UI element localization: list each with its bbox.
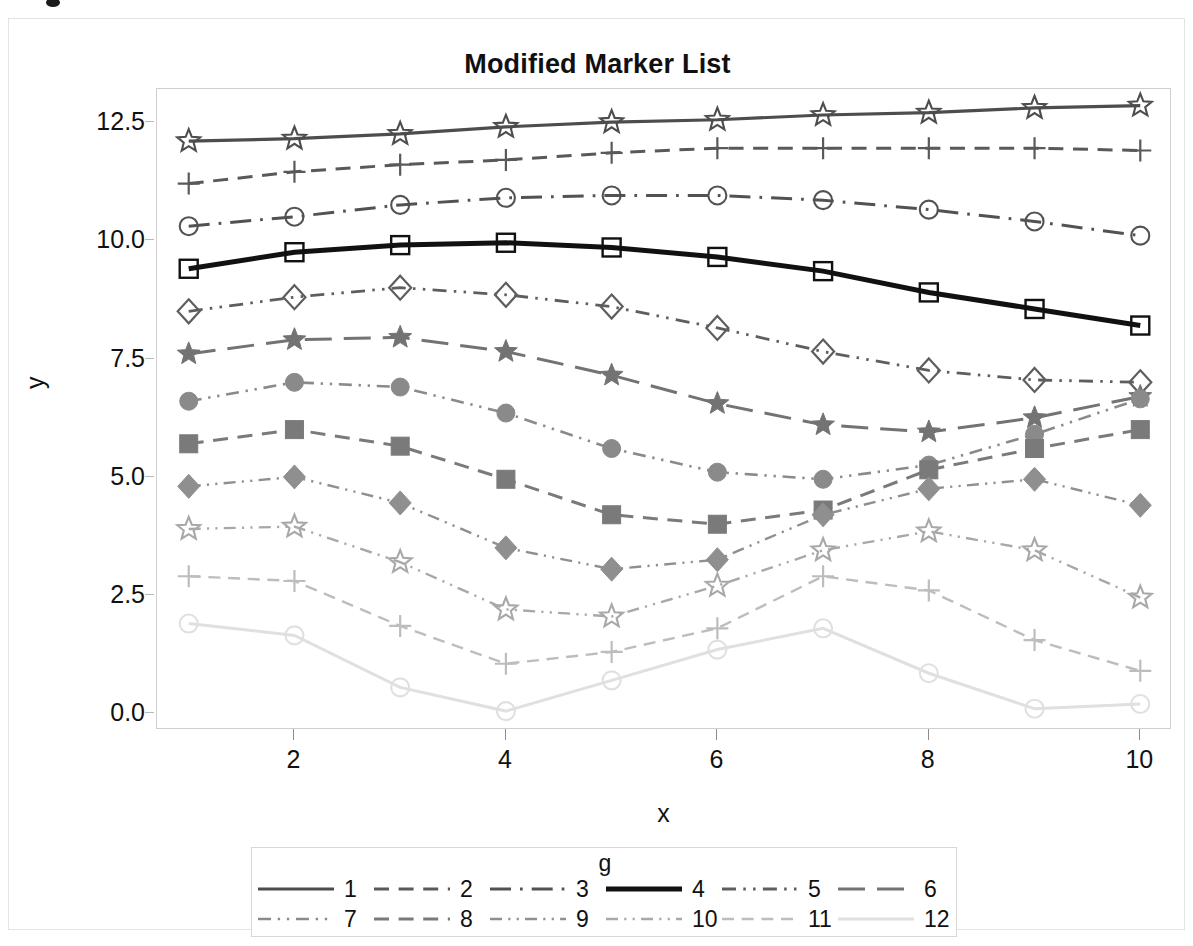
data-point-diamond-filled: [1129, 493, 1151, 517]
data-point-plus: [283, 161, 305, 183]
legend-item-11[interactable]: 11: [721, 906, 837, 933]
y-tick-label: 5.0: [110, 461, 145, 490]
y-tick-mark: [145, 239, 154, 240]
legend-swatch-3: [489, 882, 567, 896]
legend-label-7: 7: [344, 906, 372, 933]
legend-swatch-1: [257, 882, 335, 896]
legend-line-sample-12: [837, 912, 915, 926]
legend-item-1[interactable]: 1: [257, 876, 373, 903]
legend-item-5[interactable]: 5: [721, 876, 837, 903]
y-tick-mark: [145, 712, 154, 713]
legend-item-12[interactable]: 12: [837, 906, 953, 933]
data-point-square-filled: [391, 437, 409, 455]
data-point-star-open: [706, 574, 729, 596]
legend-label-5: 5: [808, 876, 836, 903]
data-point-plus: [706, 617, 728, 639]
legend-swatch-4: [605, 882, 683, 896]
data-point-plus: [812, 137, 834, 159]
y-tick-label: 0.0: [110, 698, 145, 727]
series-10: [177, 515, 1151, 627]
data-point-star-filled: [600, 363, 623, 385]
x-tick-label: 8: [921, 745, 935, 774]
data-point-plus: [495, 149, 517, 171]
legend-item-10[interactable]: 10: [605, 906, 721, 933]
data-point-square-filled: [497, 470, 515, 488]
legend-label-8: 8: [460, 906, 488, 933]
y-tick-label: 12.5: [96, 107, 145, 136]
legend-swatch-12: [837, 912, 915, 926]
series-5: [178, 276, 1152, 395]
legend-item-6[interactable]: 6: [837, 876, 953, 903]
legend-row-1: 123456: [252, 874, 958, 904]
legend-label-12: 12: [924, 906, 952, 933]
data-point-plus: [389, 154, 411, 176]
legend-line-sample-9: [489, 912, 567, 926]
data-point-plus: [918, 579, 940, 601]
x-tick-mark: [928, 729, 929, 740]
legend-label-1: 1: [344, 876, 372, 903]
data-point-star-open: [494, 597, 517, 619]
data-point-plus: [1129, 139, 1151, 161]
legend-label-2: 2: [460, 876, 488, 903]
data-point-square-filled: [603, 506, 621, 524]
legend-label-4: 4: [692, 876, 720, 903]
series-3: [180, 186, 1150, 244]
x-tick-mark: [716, 729, 717, 740]
legend-item-2[interactable]: 2: [373, 876, 489, 903]
legend-item-3[interactable]: 3: [489, 876, 605, 903]
data-point-star-open: [1023, 538, 1046, 560]
data-point-plus: [283, 570, 305, 592]
page-title: Modified Marker List: [9, 49, 1186, 80]
data-point-circle-filled: [497, 404, 515, 422]
x-axis: 246810: [156, 729, 1171, 799]
series-2: [178, 137, 1152, 194]
y-tick-mark: [145, 358, 154, 359]
series-8: [180, 421, 1150, 534]
x-tick-label: 2: [286, 745, 300, 774]
legend-row-2: 789101112: [252, 904, 958, 934]
series-6: [177, 325, 1151, 441]
legend-item-7[interactable]: 7: [257, 906, 373, 933]
legend: g 123456789101112: [251, 847, 957, 937]
legend-line-sample-4: [605, 882, 683, 896]
legend-item-4[interactable]: 4: [605, 876, 721, 903]
series-line-3: [189, 195, 1141, 235]
legend-label-11: 11: [808, 906, 836, 933]
plot-svg: [157, 89, 1172, 730]
legend-swatch-8: [373, 912, 451, 926]
x-tick-mark: [505, 729, 506, 740]
data-point-diamond-filled: [706, 548, 728, 572]
data-point-plus: [601, 142, 623, 164]
legend-line-sample-3: [489, 882, 567, 896]
data-point-circle-filled: [603, 440, 621, 458]
data-point-diamond-filled: [389, 491, 411, 515]
plot-area: [156, 88, 1171, 729]
data-point-square-filled: [1026, 440, 1044, 458]
legend-line-sample-10: [605, 912, 683, 926]
legend-swatch-2: [373, 882, 451, 896]
legend-line-sample-11: [721, 912, 799, 926]
data-point-square-filled: [285, 421, 303, 439]
legend-line-sample-8: [373, 912, 451, 926]
legend-line-sample-1: [257, 882, 335, 896]
legend-title: g: [252, 850, 958, 877]
data-point-diamond-filled: [495, 536, 517, 560]
y-tick-label: 10.0: [96, 225, 145, 254]
data-point-star-filled: [706, 392, 729, 414]
series-line-4: [189, 243, 1141, 326]
x-tick-mark: [293, 729, 294, 740]
legend-item-9[interactable]: 9: [489, 906, 605, 933]
series-9: [178, 465, 1152, 581]
data-point-star-filled: [177, 342, 200, 364]
legend-line-sample-7: [257, 912, 335, 926]
data-point-star-open: [1129, 94, 1152, 116]
data-point-star-filled: [1023, 406, 1046, 428]
legend-item-8[interactable]: 8: [373, 906, 489, 933]
data-point-plus: [495, 653, 517, 675]
y-tick-mark: [145, 594, 154, 595]
data-point-plus: [1024, 629, 1046, 651]
x-tick-label: 6: [709, 745, 723, 774]
data-point-plus: [812, 565, 834, 587]
data-point-plus: [389, 615, 411, 637]
data-point-plus: [706, 137, 728, 159]
